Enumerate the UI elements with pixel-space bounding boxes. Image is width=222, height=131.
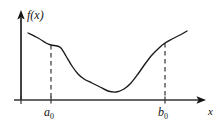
tick-label-a0-subscript: 0 (50, 112, 54, 121)
tick-label-a0: a0 (44, 106, 54, 121)
function-graph-figure: f(x) x a0 b0 (0, 0, 222, 131)
x-axis-label: x (208, 106, 213, 117)
y-axis (17, 10, 24, 100)
x-axis (14, 96, 206, 103)
y-axis-label-text: f(x) (27, 8, 44, 22)
tick-label-b0-subscript: 0 (164, 112, 168, 121)
tick-label-b0: b0 (158, 106, 168, 121)
function-curve (28, 31, 187, 92)
x-axis-label-text: x (208, 105, 213, 117)
y-axis-label: f(x) (27, 9, 44, 21)
